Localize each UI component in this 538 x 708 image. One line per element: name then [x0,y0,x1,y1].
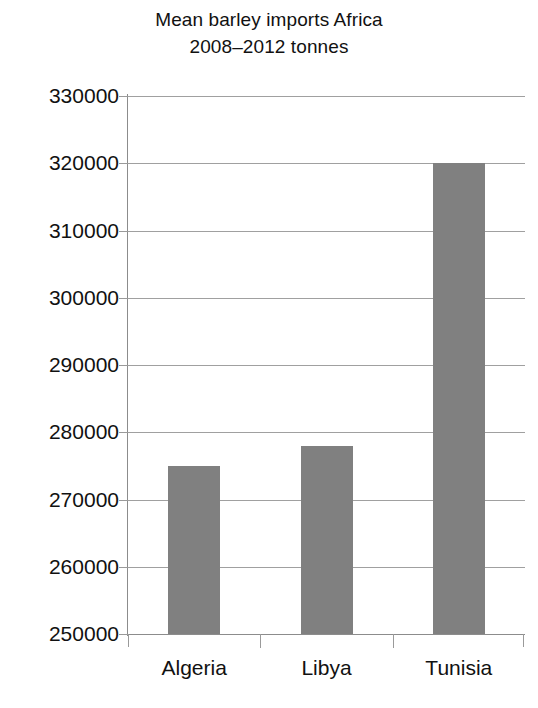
plot-area [128,96,525,634]
y-axis-tick-label: 300000 [0,287,119,308]
y-axis-tick [119,365,128,366]
y-axis-tick [119,231,128,232]
y-axis-tick-label: 330000 [0,85,119,106]
bar-chart: Mean barley imports Africa 2008–2012 ton… [0,0,538,708]
y-axis-tick-labels: 3300003200003100003000002900002800002700… [0,0,119,708]
x-axis-tick [393,634,394,648]
gridline [128,96,525,97]
y-axis-tick-label: 290000 [0,354,119,375]
y-axis-tick [119,96,128,97]
y-axis-tick [119,432,128,433]
bar-libya [301,446,353,634]
y-axis-tick-label: 250000 [0,623,119,644]
y-axis-tick-label: 260000 [0,556,119,577]
gridline [128,634,525,635]
y-axis-tick [119,634,128,635]
y-axis-tick [119,298,128,299]
y-axis-tick-label: 270000 [0,489,119,510]
y-axis-tick-label: 320000 [0,152,119,173]
x-axis-tick-label: Tunisia [393,655,525,680]
x-axis-tick-label: Algeria [128,655,260,680]
y-axis-tick [119,163,128,164]
y-axis-tick [119,567,128,568]
x-axis-tick [523,634,524,647]
x-axis-tick-label: Libya [260,655,392,680]
y-axis-tick-label: 280000 [0,421,119,442]
bar-algeria [168,466,220,634]
y-axis-tick [119,500,128,501]
bar-tunisia [433,163,485,634]
y-axis-tick-label: 310000 [0,220,119,241]
x-axis-tick [260,634,261,648]
x-axis-tick [128,634,129,647]
x-axis-tick-labels: AlgeriaLibyaTunisia [128,655,525,685]
